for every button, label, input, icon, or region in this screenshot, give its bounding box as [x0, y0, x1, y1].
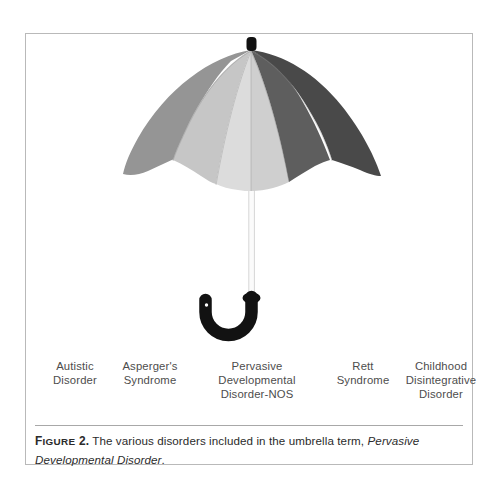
disorder-label-row: Autistic Disorder Asperger's Syndrome Pe…: [27, 359, 471, 427]
umbrella-handle: [205, 297, 252, 335]
disorder-label-aspergers-syndrome: Asperger's Syndrome: [105, 359, 195, 387]
caption-body-before-term: The various disorders included in the um…: [89, 434, 367, 447]
caption-figure-number: 2.: [79, 434, 89, 448]
caption-figure-word: FIGURE: [35, 434, 79, 448]
figure-page: Autistic Disorder Asperger's Syndrome Pe…: [0, 0, 500, 482]
umbrella-finial: [247, 37, 257, 51]
umbrella-illustration: [26, 34, 472, 354]
caption-body-after-term: .: [162, 453, 165, 466]
disorder-label-childhood-disintegrative-disorder: Childhood Disintegrative Disorder: [395, 359, 487, 402]
umbrella-graphic: [26, 34, 472, 354]
figure-frame: Autistic Disorder Asperger's Syndrome Pe…: [25, 33, 473, 465]
disorder-label-pdd-nos: Pervasive Developmental Disorder-NOS: [203, 359, 311, 402]
disorder-label-autistic-disorder: Autistic Disorder: [35, 359, 115, 387]
disorder-label-rett-syndrome: Rett Syndrome: [321, 359, 405, 387]
caption-divider: [35, 425, 463, 426]
figure-caption: FIGURE 2. The various disorders included…: [35, 432, 465, 468]
